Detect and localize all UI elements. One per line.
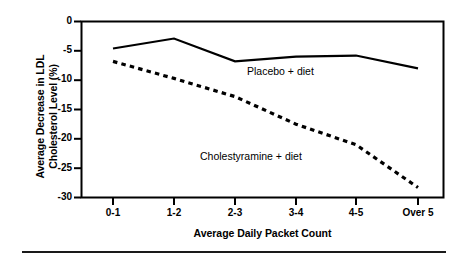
series-label-placebo: Placebo + diet: [247, 65, 314, 77]
x-axis-title: Average Daily Packet Count: [81, 227, 444, 239]
series-label-cholestyramine: Cholestyramine + diet: [200, 150, 302, 162]
plot-area: [0, 0, 467, 265]
series-line-placebo: [113, 39, 418, 69]
y-tick-marks: [74, 22, 81, 198]
series-line-cholestyramine: [113, 61, 418, 187]
chart-figure: Average Decrease in LDL Cholesterol Leve…: [0, 0, 467, 265]
bottom-rule: [22, 251, 446, 253]
x-tick-marks: [113, 198, 418, 206]
